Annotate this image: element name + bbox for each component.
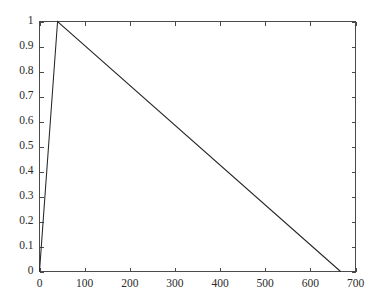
y-tick-label: 0.5: [19, 139, 34, 151]
x-tick-label: 500: [257, 277, 275, 289]
x-tick-label: 100: [76, 277, 94, 289]
x-tick-label: 700: [347, 277, 365, 289]
y-tick-label: 0.8: [19, 64, 34, 76]
y-tick-label: 0.3: [19, 189, 34, 201]
x-tick-label: 300: [166, 277, 184, 289]
x-tick-label: 200: [121, 277, 139, 289]
y-tick-label: 0: [28, 264, 34, 276]
y-tick-label: 0.7: [19, 89, 34, 101]
x-tick-label: 400: [211, 277, 229, 289]
y-tick-label: 0.9: [19, 39, 34, 51]
y-tick-label: 0.4: [19, 164, 34, 176]
y-tick-label: 0.6: [19, 114, 34, 126]
y-tick-label: 0.2: [19, 214, 34, 226]
x-tick-label: 600: [302, 277, 320, 289]
chart-background: [0, 0, 381, 305]
y-tick-label: 1: [28, 14, 34, 26]
line-chart: 00.10.20.30.40.50.60.70.80.91 0100200300…: [0, 0, 381, 305]
x-tick-label: 0: [37, 277, 43, 289]
y-tick-label: 0.1: [19, 239, 34, 251]
chart-figure: 00.10.20.30.40.50.60.70.80.91 0100200300…: [0, 0, 381, 305]
